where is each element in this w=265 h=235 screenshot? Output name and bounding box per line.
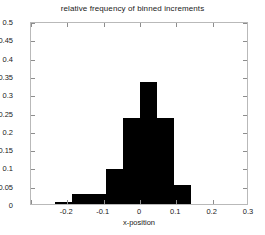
y-axis-tick: [31, 78, 35, 79]
x-axis-tick: [213, 200, 214, 204]
y-axis-tick: [243, 169, 247, 170]
x-axis-tick-label: 0.2: [206, 207, 216, 216]
y-axis-tick: [243, 96, 247, 97]
y-axis-tick: [243, 41, 247, 42]
y-axis-tick-label: 0.3: [3, 91, 13, 100]
y-axis-tick-label: 0.05: [0, 182, 13, 191]
y-axis-tick-label: 0: [9, 201, 13, 210]
y-axis-tick-label: 0.45: [0, 36, 13, 45]
y-axis-tick: [31, 60, 35, 61]
y-axis-tick: [31, 151, 35, 152]
y-axis-tick: [243, 60, 247, 61]
y-axis-tick: [243, 78, 247, 79]
chart-title: relative frequency of binned increments: [0, 4, 265, 13]
y-axis-tick-label: 0.25: [0, 109, 13, 118]
y-axis-tick: [243, 133, 247, 134]
x-axis-tick: [176, 200, 177, 204]
x-axis-tick: [67, 200, 68, 204]
x-axis-tick-label: -0.2: [60, 207, 73, 216]
y-axis-tick-label: 0.5: [3, 18, 13, 27]
x-axis-tick: [31, 200, 32, 204]
y-axis-tick: [31, 133, 35, 134]
plot-area: [30, 22, 248, 205]
x-axis-title: x-position: [30, 218, 248, 227]
y-axis-tick: [31, 169, 35, 170]
x-axis-tick: [213, 23, 214, 27]
x-axis-tick: [140, 200, 141, 204]
y-axis-tick-label: 0.15: [0, 146, 13, 155]
y-axis-tick: [31, 115, 35, 116]
histogram-bar: [106, 169, 123, 205]
y-axis-tick: [31, 41, 35, 42]
histogram-bar: [55, 202, 72, 204]
x-axis-tick: [104, 200, 105, 204]
y-axis-tick: [243, 151, 247, 152]
histogram-bar: [140, 82, 157, 204]
y-axis-tick: [243, 115, 247, 116]
x-axis-tick-label: 0: [137, 207, 141, 216]
histogram-bar: [72, 194, 89, 204]
x-axis-tick-label: -0.1: [96, 207, 109, 216]
x-axis-tick-label: 0.1: [170, 207, 180, 216]
x-axis-tick: [104, 23, 105, 27]
y-axis-tick-label: 0.35: [0, 72, 13, 81]
histogram-bar: [123, 118, 140, 204]
y-axis-tick: [243, 23, 247, 24]
y-axis-tick: [243, 188, 247, 189]
x-axis-tick: [31, 23, 32, 27]
x-axis-tick: [67, 23, 68, 27]
y-axis-tick-label: 0.4: [3, 54, 13, 63]
x-axis-tick: [176, 23, 177, 27]
y-axis-tick: [31, 188, 35, 189]
y-axis-tick: [31, 96, 35, 97]
y-axis-tick-label: 0.2: [3, 127, 13, 136]
x-axis-tick: [140, 23, 141, 27]
y-axis-tick-label: 0.1: [3, 164, 13, 173]
histogram-bar: [157, 118, 174, 204]
histogram-bars: [31, 23, 247, 204]
chart-figure: relative frequency of binned increments …: [0, 0, 265, 235]
x-axis-tick-label: 0.3: [243, 207, 253, 216]
